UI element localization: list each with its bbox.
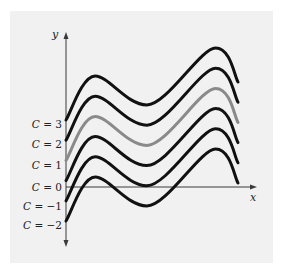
curve-family-chart: y x C = 3 C = 2 C = 1 C = 0 C = −1 C = −…: [0, 0, 285, 272]
y-axis-label: y: [51, 28, 59, 41]
label-c-3: C = 3: [32, 118, 62, 130]
label-c-minus-2: C = −2: [23, 219, 62, 231]
label-c-2: C = 2: [32, 138, 62, 150]
label-c-1: C = 1: [32, 159, 62, 171]
label-c-0: C = 0: [32, 181, 62, 193]
x-axis-label: x: [250, 191, 257, 204]
label-c-minus-1: C = −1: [23, 200, 62, 212]
